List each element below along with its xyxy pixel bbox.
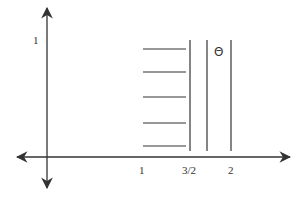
x-tick-label-1: 1 (139, 164, 145, 176)
diagram-canvas: 1 Θ 1 3/2 2 (0, 0, 304, 199)
x-tick-label-2: 2 (228, 164, 234, 176)
y-tick-label-1: 1 (33, 34, 39, 46)
vertical-lines (190, 40, 231, 151)
x-tick-label-3-2: 3/2 (182, 164, 196, 176)
horizontal-segments (143, 49, 186, 146)
region-label-theta: Θ (214, 45, 223, 59)
